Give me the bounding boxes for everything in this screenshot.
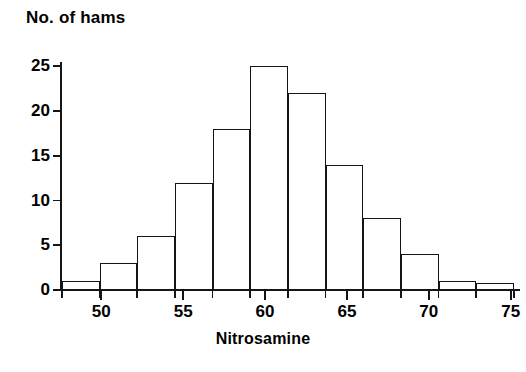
x-axis-tick-label: 50	[81, 303, 121, 320]
y-axis-tick	[53, 200, 61, 202]
x-axis-tick	[510, 291, 512, 300]
x-axis-minor-tick	[249, 291, 251, 298]
histogram-bar	[175, 183, 213, 290]
y-axis-tick	[53, 289, 61, 291]
x-axis-minor-tick	[475, 291, 477, 298]
chart-title: No. of hams	[26, 8, 126, 28]
x-axis-tick-label: 75	[491, 303, 526, 320]
x-axis-minor-tick	[136, 291, 138, 298]
y-axis-tick	[53, 244, 61, 246]
y-axis-tick	[53, 65, 61, 67]
x-axis-tick-label: 60	[245, 303, 285, 320]
x-axis-tick	[182, 291, 184, 300]
histogram-bar	[288, 93, 326, 290]
x-axis-tick	[346, 291, 348, 300]
plot-area	[62, 62, 514, 290]
x-axis-minor-tick	[212, 291, 214, 298]
histogram-figure: No. of hams 0510152025 505560657075 Nitr…	[0, 0, 526, 372]
x-axis-minor-tick	[99, 291, 101, 298]
y-axis-tick-label: 0	[16, 281, 50, 298]
x-axis-minor-tick	[287, 291, 289, 298]
histogram-bar	[326, 165, 364, 290]
x-axis-minor-tick	[61, 291, 63, 298]
x-axis-minor-tick	[174, 291, 176, 298]
y-axis-tick-label: 15	[16, 147, 50, 164]
histogram-bar	[363, 218, 401, 290]
x-axis-tick	[264, 291, 266, 300]
x-axis-tick-label: 70	[409, 303, 449, 320]
x-axis-line	[60, 289, 520, 291]
histogram-bar	[137, 236, 175, 290]
y-axis-line	[60, 62, 62, 291]
x-axis-minor-tick	[513, 291, 515, 298]
x-axis-tick	[428, 291, 430, 300]
y-axis-tick-label: 10	[16, 192, 50, 209]
histogram-bar	[100, 263, 138, 290]
x-axis-tick-label: 55	[163, 303, 203, 320]
x-axis-minor-tick	[400, 291, 402, 298]
x-axis-minor-tick	[438, 291, 440, 298]
x-axis-tick	[100, 291, 102, 300]
histogram-bar	[401, 254, 439, 290]
x-axis-tick-label: 65	[327, 303, 367, 320]
y-axis-tick	[53, 155, 61, 157]
histogram-bar	[213, 129, 251, 290]
histogram-bar	[250, 66, 288, 290]
x-axis-minor-tick	[362, 291, 364, 298]
y-axis-tick-label: 25	[16, 57, 50, 74]
x-axis-title: Nitrosamine	[0, 330, 526, 348]
y-axis-tick	[53, 110, 61, 112]
x-axis-minor-tick	[325, 291, 327, 298]
y-axis-tick-label: 5	[16, 236, 50, 253]
y-axis-tick-label: 20	[16, 102, 50, 119]
